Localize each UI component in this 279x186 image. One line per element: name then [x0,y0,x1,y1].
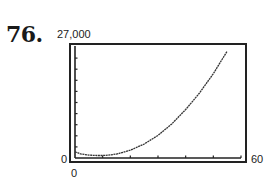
data-curve [75,51,227,155]
screen-frame [70,44,246,162]
axes [75,46,241,158]
calculator-graph [0,0,279,186]
